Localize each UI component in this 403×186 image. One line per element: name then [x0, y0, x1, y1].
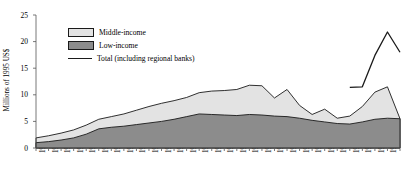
legend-item-low-income: Low-income — [68, 40, 195, 51]
legend-label-low-income: Low-income — [99, 41, 138, 50]
legend-swatch-low-income — [68, 41, 94, 50]
legend-item-total: Total (including regional banks) — [68, 53, 195, 64]
legend-label-total: Total (including regional banks) — [97, 54, 195, 63]
legend-swatch-middle-income — [68, 28, 94, 37]
legend-item-middle-income: Middle-income — [68, 27, 195, 38]
line-total — [350, 32, 400, 87]
legend-line-total — [68, 58, 92, 59]
chart-legend: Middle-income Low-income Total (includin… — [68, 27, 195, 66]
legend-label-middle-income: Middle-income — [99, 28, 146, 37]
chart-container: Millions of 1995 US$ 0510152025 19701971… — [0, 0, 403, 186]
plot-area — [0, 0, 403, 186]
